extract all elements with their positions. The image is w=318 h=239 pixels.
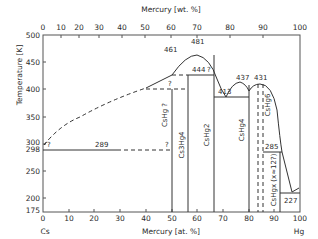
- svg-text:0: 0: [41, 214, 46, 223]
- svg-text:413: 413: [218, 88, 231, 96]
- bottom-axis-title: Mercury [at. %]: [142, 227, 200, 236]
- element-cs: Cs: [40, 227, 49, 236]
- y-tick-labels: 500 450 400 350 300 298 250 200 175: [26, 31, 41, 215]
- svg-text:175: 175: [26, 206, 41, 215]
- svg-text:30: 30: [115, 214, 125, 223]
- svg-text:100: 100: [293, 214, 308, 223]
- svg-text:?: ?: [165, 141, 169, 149]
- phase-diagram: Mercury [wt. %] 0 10 20 30 40 50 60 70 8…: [0, 0, 318, 239]
- svg-text:437: 437: [236, 74, 249, 82]
- svg-text:431: 431: [254, 74, 267, 82]
- svg-text:?: ?: [168, 80, 172, 88]
- svg-text:?: ?: [47, 141, 51, 149]
- svg-text:350: 350: [26, 113, 41, 122]
- svg-text:50: 50: [140, 23, 150, 32]
- top-tick-labels: 0 10 20 30 40 50 60 70 80 90 100: [41, 23, 308, 32]
- svg-text:Cs3Hg4: Cs3Hg4: [178, 131, 186, 159]
- svg-text:20: 20: [74, 23, 84, 32]
- svg-text:30: 30: [94, 23, 104, 32]
- svg-text:10: 10: [64, 214, 74, 223]
- svg-text:40: 40: [117, 23, 127, 32]
- svg-text:20: 20: [89, 214, 99, 223]
- svg-text:60: 60: [192, 214, 202, 223]
- svg-text:CsHg4: CsHg4: [238, 118, 246, 141]
- compound-labels: CsHg ? Cs3Hg4 CsHg2 CsHg4 CsHg6 CsHgx (x…: [161, 93, 278, 206]
- svg-text:10: 10: [56, 23, 66, 32]
- svg-text:80: 80: [225, 23, 235, 32]
- svg-text:400: 400: [26, 85, 41, 94]
- svg-text:40: 40: [141, 214, 151, 223]
- svg-text:60: 60: [166, 23, 176, 32]
- svg-text:289: 289: [95, 141, 108, 149]
- svg-text:CsHg2: CsHg2: [203, 124, 211, 147]
- svg-text:227: 227: [284, 197, 297, 205]
- svg-text:CsHgx (x≈12?): CsHgx (x≈12?): [270, 153, 278, 206]
- svg-text:80: 80: [244, 214, 254, 223]
- svg-text:90: 90: [258, 23, 268, 32]
- top-axis-title: Mercury [wt. %]: [141, 5, 201, 14]
- svg-text:200: 200: [26, 194, 41, 203]
- svg-text:CsHg ?: CsHg ?: [161, 103, 169, 127]
- svg-text:481: 481: [191, 38, 204, 46]
- svg-text:CsHg6: CsHg6: [264, 93, 272, 116]
- bottom-tick-labels: 0 10 20 30 40 50 60 70 80 90 100: [41, 214, 308, 223]
- svg-text:100: 100: [293, 23, 308, 32]
- svg-text:450: 450: [26, 58, 41, 67]
- y-axis-title: Temperature [K]: [15, 45, 24, 107]
- svg-text:285: 285: [265, 143, 278, 151]
- svg-text:70: 70: [218, 214, 228, 223]
- svg-text:70: 70: [192, 23, 202, 32]
- svg-text:298: 298: [26, 145, 41, 154]
- element-hg: Hg: [294, 227, 305, 236]
- svg-text:461: 461: [164, 46, 177, 54]
- svg-text:500: 500: [26, 31, 41, 40]
- svg-text:90: 90: [269, 214, 279, 223]
- svg-text:250: 250: [26, 167, 41, 176]
- svg-text:0: 0: [41, 23, 46, 32]
- svg-text:50: 50: [167, 214, 177, 223]
- liquidus-to-227: [282, 152, 292, 192]
- svg-text:?: ?: [207, 66, 211, 74]
- svg-text:444: 444: [192, 66, 206, 74]
- liquidus-cs-side: [44, 88, 146, 145]
